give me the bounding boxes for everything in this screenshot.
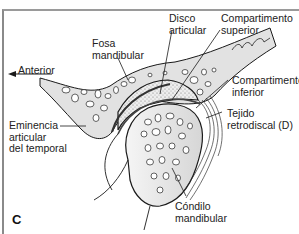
mandibular-condyle	[126, 104, 203, 206]
label-line: Cóndilo	[175, 201, 227, 213]
label-tejido-retrodiscal: Tejido retrodiscal (D)	[227, 108, 293, 131]
label-line: Compartimento	[232, 75, 299, 87]
label-line: mandibular	[175, 213, 227, 225]
panel-letter: C	[12, 212, 21, 227]
label-line: articular	[169, 25, 206, 37]
label-eminencia-articular: Eminencia articular del temporal	[9, 120, 67, 155]
label-anterior: Anterior	[18, 65, 55, 77]
label-line: del temporal	[9, 143, 67, 155]
label-line: inferior	[232, 87, 299, 99]
label-condilo-mandibular: Cóndilo mandibular	[175, 201, 227, 224]
label-compartimento-superior: Compartimento superior	[221, 13, 293, 36]
label-line: Eminencia	[9, 120, 67, 132]
label-line: Disco	[169, 13, 206, 25]
label-line: Fosa	[92, 38, 144, 50]
label-fosa-mandibular: Fosa mandibular	[92, 38, 144, 61]
label-line: Compartimento	[221, 13, 293, 25]
label-line: mandibular	[92, 50, 144, 62]
label-disco-articular: Disco articular	[169, 13, 206, 36]
label-line: Tejido	[227, 108, 293, 120]
label-compartimento-inferior: Compartimento inferior	[232, 75, 299, 98]
label-line: superior	[221, 25, 293, 37]
label-line: retrodiscal (D)	[227, 120, 293, 132]
